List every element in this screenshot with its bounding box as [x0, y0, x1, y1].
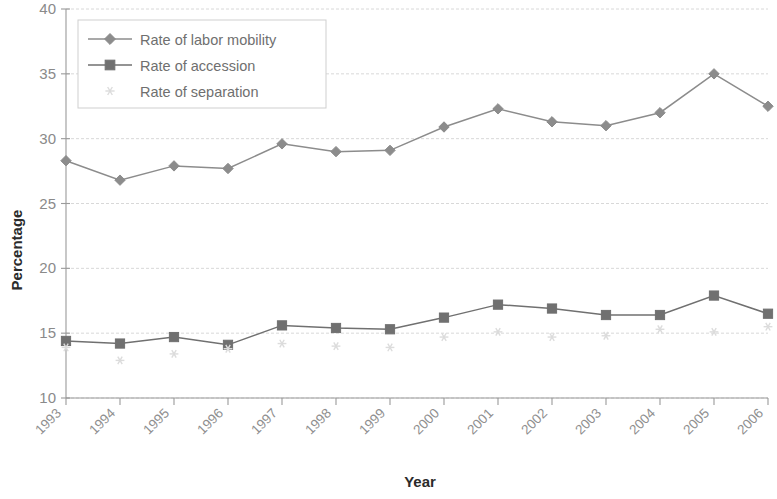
square-marker	[169, 332, 178, 341]
diamond-marker	[493, 104, 503, 114]
x-tick-label: 1998	[302, 406, 334, 438]
x-tick-label: 2001	[464, 406, 496, 438]
y-tick-label: 25	[39, 195, 56, 212]
asterisk-marker	[278, 340, 287, 348]
square-marker	[331, 323, 340, 332]
x-tick-label: 1993	[32, 406, 64, 438]
diamond-marker	[655, 108, 665, 118]
asterisk-marker	[494, 328, 503, 336]
y-tick-label: 20	[39, 259, 56, 276]
square-marker	[385, 325, 394, 334]
diamond-marker	[169, 161, 179, 171]
chart-legend: Rate of labor mobilityRate of accessionR…	[78, 20, 326, 108]
diamond-marker	[763, 101, 773, 111]
x-axis-ticks	[66, 398, 768, 405]
diamond-marker	[709, 69, 719, 79]
legend-label: Rate of separation	[140, 84, 259, 100]
y-axis-title: Percentage	[8, 210, 25, 291]
asterisk-marker	[116, 357, 125, 365]
y-tick-label: 40	[39, 0, 56, 17]
square-marker	[763, 309, 772, 318]
x-tick-label: 2002	[518, 406, 550, 438]
diamond-marker	[223, 163, 233, 173]
asterisk-marker	[440, 333, 449, 341]
diamond-marker	[61, 156, 71, 166]
asterisk-marker	[710, 328, 719, 336]
series-rate-of-separation	[62, 323, 773, 364]
y-tick-label: 15	[39, 324, 56, 341]
x-tick-label: 2006	[734, 406, 766, 438]
asterisk-marker	[332, 342, 341, 350]
square-marker	[105, 60, 115, 70]
asterisk-marker	[656, 325, 665, 333]
x-tick-label: 2005	[680, 406, 712, 438]
diamond-marker	[277, 139, 287, 149]
series-rate-of-accession	[61, 291, 772, 349]
x-tick-label: 2000	[410, 406, 442, 438]
x-axis-tick-labels: 1993199419951996199719981999200020012002…	[32, 405, 766, 437]
diamond-marker	[115, 175, 125, 185]
x-tick-label: 1996	[194, 406, 226, 438]
square-marker	[61, 336, 70, 345]
square-marker	[493, 300, 502, 309]
square-marker	[709, 291, 718, 300]
x-axis-title: Year	[404, 473, 436, 490]
diamond-marker	[385, 145, 395, 155]
line-chart: 10152025303540 1993199419951996199719981…	[0, 0, 777, 499]
x-tick-label: 1995	[140, 406, 172, 438]
x-tick-label: 1994	[86, 405, 118, 437]
chart-container: 10152025303540 1993199419951996199719981…	[0, 0, 777, 499]
asterisk-marker	[170, 350, 179, 358]
diamond-marker	[439, 122, 449, 132]
asterisk-marker	[764, 323, 773, 331]
x-tick-label: 2004	[626, 405, 658, 437]
x-tick-label: 1999	[356, 406, 388, 438]
x-tick-label: 2003	[572, 406, 604, 438]
diamond-marker	[331, 146, 341, 156]
square-marker	[601, 310, 610, 319]
square-marker	[277, 321, 286, 330]
square-marker	[655, 310, 664, 319]
y-tick-label: 10	[39, 389, 56, 406]
diamond-marker	[547, 117, 557, 127]
data-series-layer	[61, 69, 773, 365]
y-tick-label: 30	[39, 130, 56, 147]
legend-label: Rate of labor mobility	[140, 32, 277, 48]
diamond-marker	[601, 121, 611, 131]
square-marker	[547, 304, 556, 313]
asterisk-marker	[548, 333, 557, 341]
square-marker	[439, 313, 448, 322]
y-tick-label: 35	[39, 65, 56, 82]
y-axis-tick-labels: 10152025303540	[39, 0, 56, 406]
x-tick-label: 1997	[248, 406, 280, 438]
square-marker	[115, 339, 124, 348]
legend-label: Rate of accession	[140, 58, 255, 74]
asterisk-marker	[386, 344, 395, 352]
